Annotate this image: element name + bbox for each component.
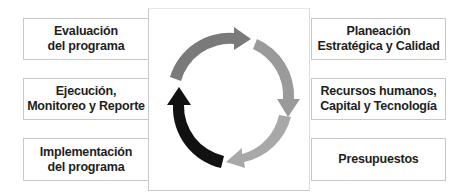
box-presupuestos: Presupuestos [311,138,446,181]
box-label-line: Presupuestos [338,152,418,167]
box-label-line: Evaluación [48,24,125,39]
cycle-panel [148,8,310,191]
box-label-line: Recursos humanos, [320,84,437,99]
box-label-line: Capital y Tecnología [320,99,437,114]
arrow-bottom-icon [226,115,291,168]
box-label-line: Ejecución, [27,84,145,99]
box-planeacion-estrategica-calidad: Planeación Estratégica y Calidad [311,18,446,60]
box-label-line: del programa [40,160,132,175]
box-implementacion-del-programa: Implementación del programa [23,138,149,181]
box-label-line: Estratégica y Calidad [317,39,439,54]
box-evaluacion-del-programa: Evaluación del programa [23,18,149,60]
box-label-line: Monitoreo y Reporte [27,99,145,114]
arrow-right-icon [253,39,300,117]
arrow-left-icon [167,87,224,168]
box-label-line: Planeación [317,24,439,39]
arrow-top-icon [170,27,251,81]
cycle-arrows-graphic [149,9,311,192]
box-recursos-humanos-capital-tecnologia: Recursos humanos, Capital y Tecnología [311,78,446,120]
box-label-line: Implementación [40,145,132,160]
box-ejecucion-monitoreo-reporte: Ejecución, Monitoreo y Reporte [23,78,149,120]
box-label-line: del programa [48,39,125,54]
